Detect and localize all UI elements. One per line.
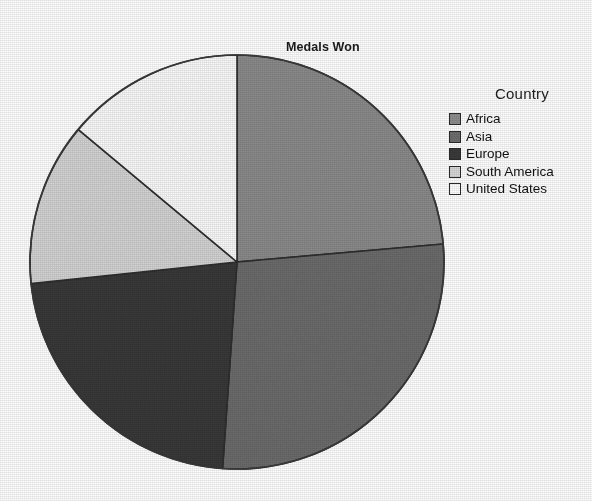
legend-label-united-states: United States — [466, 182, 547, 196]
pie-chart-figure: Medals Won Country Africa Asia Europe So… — [0, 0, 592, 501]
legend: Country Africa Asia Europe South America… — [443, 85, 588, 199]
legend-swatch-united-states — [449, 183, 461, 195]
legend-label-south-america: South America — [466, 165, 554, 179]
legend-label-africa: Africa — [466, 112, 501, 126]
pie-slice-europe — [31, 262, 237, 469]
legend-swatch-europe — [449, 148, 461, 160]
pie-slice-asia — [223, 244, 444, 469]
legend-swatch-africa — [449, 113, 461, 125]
legend-swatch-south-america — [449, 166, 461, 178]
legend-item-united-states[interactable]: United States — [449, 181, 588, 198]
pie-chart-svg — [0, 0, 592, 501]
legend-title: Country — [456, 85, 588, 102]
legend-swatch-asia — [449, 131, 461, 143]
pie-slice-africa — [237, 55, 443, 262]
legend-item-africa[interactable]: Africa — [449, 111, 588, 128]
pie-slices-group — [30, 55, 444, 469]
legend-label-europe: Europe — [466, 147, 510, 161]
chart-title: Medals Won — [286, 40, 426, 54]
legend-item-europe[interactable]: Europe — [449, 146, 588, 163]
legend-label-asia: Asia — [466, 130, 492, 144]
legend-item-south-america[interactable]: South America — [449, 164, 588, 181]
legend-item-asia[interactable]: Asia — [449, 129, 588, 146]
